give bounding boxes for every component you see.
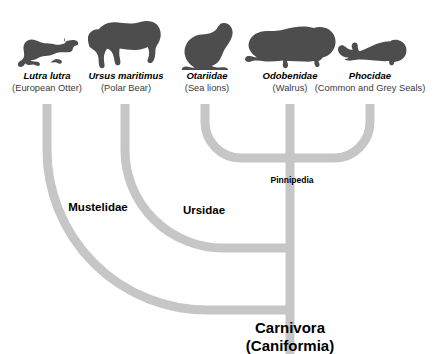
branch-otariidae <box>205 104 291 158</box>
taxon-lutra-lutra: Lutra lutra (European Otter) <box>12 30 82 94</box>
taxon-scientific-name: Phocidae <box>315 70 426 82</box>
clade-label-mustelidae: Mustelidae <box>68 201 127 213</box>
taxon-ursus-maritimus: Ursus maritimus (Polar Bear) <box>88 16 164 94</box>
clade-label-pinnipedia: Pinnipedia <box>271 175 314 185</box>
root-subname: (Caniformia) <box>246 337 334 354</box>
clade-label-ursidae: Ursidae <box>183 204 225 216</box>
taxon-scientific-name: Ursus maritimus <box>88 70 164 82</box>
phylogenetic-tree-diagram: Lutra lutra (European Otter) Ursus marit… <box>0 0 441 354</box>
taxon-common-name: (Sea lions) <box>176 82 238 94</box>
taxon-phocidae: Phocidae (Common and Grey Seals) <box>315 38 426 94</box>
taxon-common-name: (Common and Grey Seals) <box>315 82 426 94</box>
taxon-common-name: (European Otter) <box>12 82 82 94</box>
root-name: Carnivora <box>246 319 334 337</box>
taxon-otariidae: Otariidae (Sea lions) <box>176 21 238 94</box>
polar-bear-silhouette <box>88 16 164 70</box>
root-label: Carnivora (Caniformia) <box>246 319 334 354</box>
taxon-scientific-name: Lutra lutra <box>12 70 82 82</box>
otter-silhouette <box>12 30 82 70</box>
sea-lion-silhouette <box>176 21 238 70</box>
branch-phocidae <box>291 104 370 158</box>
seal-silhouette <box>315 38 426 70</box>
taxon-scientific-name: Otariidae <box>176 70 238 82</box>
taxon-common-name: (Polar Bear) <box>88 82 164 94</box>
